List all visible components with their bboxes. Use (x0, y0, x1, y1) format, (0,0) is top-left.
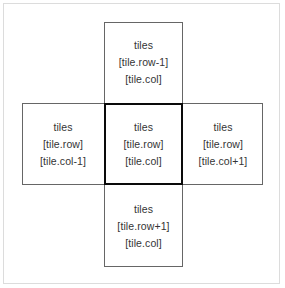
tile-cell-left-line2: [tile.row] (43, 136, 83, 153)
tile-cell-right-line3: [tile.col+1] (199, 153, 248, 170)
tile-cell-bottom-line3: [tile.col] (125, 235, 162, 252)
tile-cell-bottom-line1: tiles (134, 201, 153, 218)
tile-cell-center: tiles [tile.row] [tile.col] (104, 103, 183, 185)
tile-cell-top-line3: [tile.col] (125, 71, 162, 88)
tile-cell-bottom-line2: [tile.row+1] (117, 218, 169, 235)
tile-cell-right-line2: [tile.row] (203, 136, 243, 153)
tile-neighbour-diagram: tiles [tile.row-1] [tile.col] tiles [til… (0, 0, 285, 288)
tile-cell-top-line2: [tile.row-1] (119, 54, 169, 71)
tile-cell-center-line3: [tile.col] (125, 153, 162, 170)
tile-cell-left: tiles [tile.row] [tile.col-1] (22, 103, 104, 185)
tile-cell-top-line1: tiles (134, 37, 153, 54)
tile-cell-center-line1: tiles (134, 119, 153, 136)
tile-cell-right-line1: tiles (213, 119, 232, 136)
tile-cell-center-line2: [tile.row] (123, 136, 163, 153)
tile-cell-left-line3: [tile.col-1] (40, 153, 86, 170)
tile-cell-right: tiles [tile.row] [tile.col+1] (183, 103, 263, 185)
tile-cell-top: tiles [tile.row-1] [tile.col] (104, 22, 183, 103)
tile-cell-left-line1: tiles (53, 119, 72, 136)
tile-cell-bottom: tiles [tile.row+1] [tile.col] (104, 185, 183, 267)
